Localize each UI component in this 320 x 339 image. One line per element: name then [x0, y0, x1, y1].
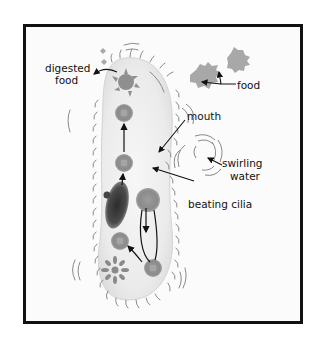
label-digested-food-line1: digested [45, 63, 90, 74]
label-swirling-water-line2: water [230, 171, 260, 182]
label-beating-cilia: beating cilia [188, 199, 252, 210]
label-food: food [237, 80, 260, 91]
paramecium-illustration [0, 0, 320, 339]
label-digested-food-line2: food [55, 75, 78, 86]
label-mouth: mouth [187, 111, 221, 122]
label-swirling-water-line1: swirling [222, 158, 262, 169]
